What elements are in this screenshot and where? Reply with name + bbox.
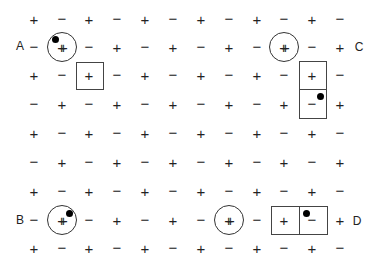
minus-ion: − [107, 8, 127, 28]
minus-ion: − [191, 151, 211, 171]
plus-ion: + [163, 152, 183, 172]
label-a: A [16, 39, 24, 53]
plus-ion: + [219, 37, 239, 57]
minus-ion: − [24, 151, 44, 171]
minus-ion: − [135, 36, 155, 56]
plus-ion: + [135, 181, 155, 201]
plus-ion: + [24, 65, 44, 85]
minus-ion: − [135, 93, 155, 113]
plus-ion: + [79, 181, 99, 201]
plus-ion: + [247, 238, 267, 258]
minus-ion: − [219, 122, 239, 142]
minus-ion: − [24, 209, 44, 229]
minus-ion: − [274, 122, 294, 142]
minus-ion: − [219, 237, 239, 257]
plus-ion: + [79, 123, 99, 143]
plus-ion: + [330, 210, 350, 230]
plus-ion: + [79, 238, 99, 258]
plus-ion: + [274, 94, 294, 114]
minus-ion: − [330, 122, 350, 142]
minus-ion: − [330, 64, 350, 84]
minus-ion: − [274, 237, 294, 257]
label-d: D [353, 214, 362, 228]
plus-ion: + [107, 37, 127, 57]
minus-ion: − [52, 180, 72, 200]
double-plus-ion: ++ [217, 210, 241, 230]
minus-ion: − [163, 180, 183, 200]
minus-ion: − [219, 64, 239, 84]
minus-ion: − [79, 36, 99, 56]
minus-ion: − [274, 64, 294, 84]
charge-lattice-diagram: +−+−+−+−+−+−−++−+−+−+−++−++−+−+−+−+−+−−+… [0, 0, 378, 267]
minus-ion: − [79, 93, 99, 113]
plus-ion: + [163, 210, 183, 230]
minus-ion: − [163, 237, 183, 257]
plus-ion: + [302, 181, 322, 201]
plus-ion: + [52, 94, 72, 114]
plus-ion: + [135, 123, 155, 143]
minus-ion: − [247, 36, 267, 56]
minus-ion: − [330, 180, 350, 200]
plus-ion: + [107, 152, 127, 172]
minus-ion: − [274, 8, 294, 28]
plus-ion: + [191, 181, 211, 201]
label-c: C [355, 40, 364, 54]
minus-ion: − [107, 180, 127, 200]
double-plus-ion: ++ [272, 37, 296, 57]
minus-ion: − [52, 237, 72, 257]
minus-ion: − [302, 36, 322, 56]
electron-dot [52, 36, 59, 43]
label-b: B [16, 213, 24, 227]
plus-ion: + [191, 65, 211, 85]
minus-ion: − [191, 209, 211, 229]
minus-ion: − [24, 93, 44, 113]
plus-ion: + [219, 152, 239, 172]
plus-ion: + [247, 9, 267, 29]
plus-ion: + [24, 123, 44, 143]
plus-ion: + [274, 210, 294, 230]
minus-ion: − [52, 8, 72, 28]
minus-ion: − [24, 36, 44, 56]
minus-ion: − [163, 8, 183, 28]
minus-ion: − [163, 64, 183, 84]
electron-dot [303, 210, 310, 217]
plus-ion: + [163, 94, 183, 114]
plus-ion: + [135, 238, 155, 258]
minus-ion: − [247, 209, 267, 229]
minus-ion: − [274, 180, 294, 200]
plus-ion: + [219, 94, 239, 114]
plus-ion: + [52, 152, 72, 172]
minus-ion: − [79, 209, 99, 229]
minus-ion: − [191, 36, 211, 56]
electron-dot [66, 210, 73, 217]
plus-ion: + [302, 9, 322, 29]
plus-ion: + [24, 181, 44, 201]
minus-ion: − [52, 122, 72, 142]
minus-ion: − [79, 151, 99, 171]
plus-ion: + [247, 123, 267, 143]
plus-ion: + [135, 65, 155, 85]
plus-ion: + [330, 152, 350, 172]
plus-ion: + [107, 94, 127, 114]
plus-ion: + [302, 65, 322, 85]
plus-ion: + [163, 37, 183, 57]
minus-ion: − [107, 64, 127, 84]
minus-ion: − [135, 151, 155, 171]
plus-ion: + [302, 238, 322, 258]
minus-ion: − [135, 209, 155, 229]
plus-ion: + [135, 9, 155, 29]
minus-ion: − [247, 151, 267, 171]
plus-ion: + [247, 181, 267, 201]
plus-ion: + [24, 9, 44, 29]
plus-ion: + [191, 9, 211, 29]
minus-ion: − [52, 64, 72, 84]
plus-ion: + [302, 123, 322, 143]
electron-dot [317, 93, 324, 100]
plus-ion: + [330, 94, 350, 114]
plus-ion: + [247, 65, 267, 85]
plus-ion: + [274, 152, 294, 172]
plus-ion: + [79, 65, 99, 85]
plus-ion: + [107, 210, 127, 230]
minus-ion: − [247, 93, 267, 113]
minus-ion: − [330, 8, 350, 28]
